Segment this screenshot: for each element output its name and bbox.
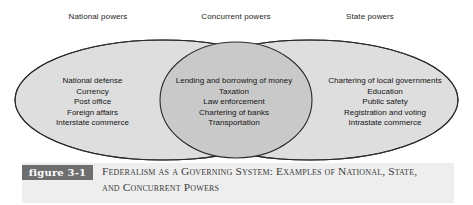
list-item: National defense (35, 76, 150, 87)
caption-line-1: Federalism as a Governing System: Exampl… (102, 164, 452, 180)
list-item: Transportation (158, 118, 310, 129)
list-item: Law enforcement (158, 97, 310, 108)
list-item: Post office (35, 97, 150, 108)
figure-caption: Federalism as a Governing System: Exampl… (102, 164, 452, 195)
list-item: Public safety (305, 97, 465, 108)
list-item: Chartering of banks (158, 108, 310, 119)
list-item: Education (305, 87, 465, 98)
concurrent-powers-label: Concurrent powers (176, 12, 296, 21)
caption-line-2: and Concurrent Powers (102, 180, 452, 196)
concurrent-powers-list: Lending and borrowing of money Taxation … (158, 76, 310, 129)
list-item: Interstate commerce (35, 118, 150, 129)
list-item: Chartering of local governments (305, 76, 465, 87)
list-item: Intrastate commerce (305, 118, 465, 129)
list-item: Lending and borrowing of money (158, 76, 310, 87)
list-item: Foreign affairs (35, 108, 150, 119)
list-item: Currency (35, 87, 150, 98)
figure-number-badge: figure 3-1 (22, 165, 93, 180)
list-item: Registration and voting (305, 108, 465, 119)
state-powers-label: State powers (310, 12, 430, 21)
national-powers-label: National powers (38, 12, 158, 21)
figure-container: National powers Concurrent powers State … (0, 0, 473, 205)
state-powers-list: Chartering of local governments Educatio… (305, 76, 465, 129)
national-powers-list: National defense Currency Post office Fo… (35, 76, 150, 129)
list-item: Taxation (158, 87, 310, 98)
